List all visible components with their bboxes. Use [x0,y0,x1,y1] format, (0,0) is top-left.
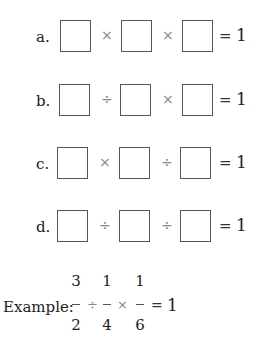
answer-box-2[interactable] [119,147,150,179]
result-value: 1 [167,295,178,315]
problem-label: a. [36,28,50,46]
result-value: 1 [236,25,247,45]
multiply-operator: × [117,297,128,312]
answer-box-1[interactable] [60,20,91,52]
divide-operator: ÷ [99,217,111,233]
equals-sign: = [219,27,232,45]
divide-operator: ÷ [161,154,173,170]
equals-sign: = [151,297,163,313]
result-value: 1 [236,215,247,235]
multiply-operator: × [99,154,111,170]
answer-box-1[interactable] [57,210,88,242]
answer-box-3[interactable] [182,84,213,116]
divide-operator: ÷ [101,91,113,107]
problem-b: b. ÷ × = 1 [0,84,265,118]
result-value: 1 [236,89,247,109]
fraction-bar [136,304,144,305]
example: Example: 3 2 ÷ 1 4 × 1 6 = 1 [0,272,265,342]
answer-box-2[interactable] [120,84,151,116]
denominator: 6 [133,316,147,334]
fraction-bar [72,304,80,305]
numerator: 1 [133,272,147,290]
equals-sign: = [219,217,232,235]
multiply-operator: × [162,27,174,43]
fraction-bar [103,304,111,305]
answer-box-3[interactable] [180,210,211,242]
denominator: 2 [69,316,83,334]
result-value: 1 [236,152,247,172]
answer-box-2[interactable] [119,210,150,242]
divide-operator: ÷ [161,217,173,233]
problem-a: a. × × = 1 [0,20,265,54]
numerator: 3 [69,272,83,290]
numerator: 1 [100,272,114,290]
answer-box-1[interactable] [57,147,88,179]
equals-sign: = [219,154,232,172]
answer-box-3[interactable] [180,147,211,179]
problem-label: d. [36,218,50,236]
problem-d: d. ÷ ÷ = 1 [0,210,265,244]
divide-operator: ÷ [87,297,98,312]
answer-box-1[interactable] [59,84,90,116]
example-label: Example: [3,298,74,316]
problem-label: b. [36,92,50,110]
problem-c: c. × ÷ = 1 [0,147,265,181]
multiply-operator: × [101,27,113,43]
equals-sign: = [219,91,232,109]
denominator: 4 [100,316,114,334]
answer-box-3[interactable] [182,20,213,52]
multiply-operator: × [162,91,174,107]
answer-box-2[interactable] [121,20,152,52]
problem-label: c. [36,155,49,173]
